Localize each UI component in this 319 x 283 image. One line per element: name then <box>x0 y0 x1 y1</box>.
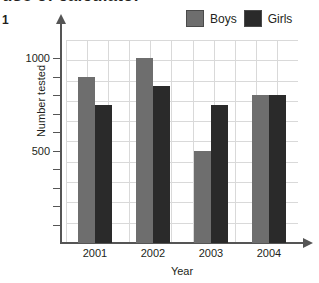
x-axis-arrow-icon <box>303 238 313 248</box>
chart-legend: Boys Girls <box>186 10 292 27</box>
y-axis-tick <box>53 77 61 78</box>
bar-boys-2003 <box>194 151 211 243</box>
chart-grid-top-line <box>66 40 298 41</box>
bar-girls-2001 <box>95 105 112 243</box>
y-axis-tick <box>53 151 61 152</box>
y-axis-tick <box>53 225 61 226</box>
bar-girls-2003 <box>211 105 228 243</box>
page-heading-text: use of calculator <box>0 0 319 9</box>
y-axis-tick <box>53 169 61 170</box>
bar-boys-2002 <box>136 58 153 243</box>
y-axis-tick <box>53 114 61 115</box>
x-axis-label-2004: 2004 <box>239 248 299 259</box>
y-axis-label: 1000 <box>0 53 50 64</box>
legend-item-girls: Girls <box>244 10 293 27</box>
y-axis-tick <box>53 95 61 96</box>
y-axis-tick <box>53 206 61 207</box>
x-axis-title: Year <box>66 265 298 277</box>
legend-item-boys: Boys <box>186 10 237 27</box>
legend-swatch-icon-boys <box>186 10 204 27</box>
page-heading: use of calculator <box>0 0 319 9</box>
y-axis-label: 500 <box>0 146 50 157</box>
bar-boys-2001 <box>78 77 95 243</box>
legend-swatch-icon-girls <box>244 10 262 27</box>
bar-boys-2004 <box>252 95 269 243</box>
x-axis-label-2003: 2003 <box>181 248 241 259</box>
bar-girls-2004 <box>269 95 286 243</box>
x-axis-label-2002: 2002 <box>123 248 183 259</box>
y-axis-tick <box>53 188 61 189</box>
y-axis-tick <box>53 58 61 59</box>
question-number: 1 <box>2 14 9 26</box>
bar-girls-2002 <box>153 86 170 243</box>
legend-label-boys: Boys <box>210 13 237 25</box>
y-axis-arrow-icon <box>56 14 66 24</box>
y-axis-tick <box>53 132 61 133</box>
x-axis-label-2001: 2001 <box>65 248 125 259</box>
legend-label-girls: Girls <box>268 13 293 25</box>
